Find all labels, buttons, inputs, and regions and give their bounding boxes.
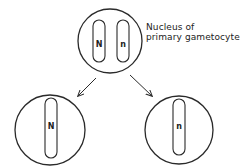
right-daughter-nucleus: n — [145, 96, 213, 164]
parent-chromosome-2-letter: n — [120, 40, 126, 49]
right-daughter-chromosome-letter: n — [176, 122, 182, 131]
arrow-down-right-icon — [130, 75, 152, 96]
label-line-1: Nucleus of — [146, 22, 240, 32]
arrow-down-left-icon — [78, 78, 96, 96]
parent-nucleus-label: Nucleus of primary gametocyte — [146, 22, 240, 42]
label-line-2: primary gametocyte — [146, 32, 240, 42]
left-daughter-nucleus: N — [15, 95, 85, 165]
left-daughter-chromosome-letter: N — [48, 122, 55, 131]
parent-chromosome-1-letter: N — [96, 40, 103, 49]
parent-nucleus: N n — [78, 9, 142, 73]
parent-nucleus-circle — [78, 9, 142, 73]
